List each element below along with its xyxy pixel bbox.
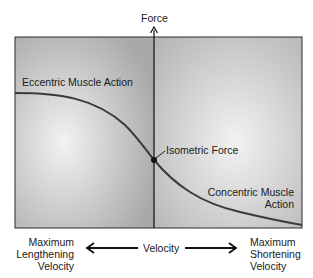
left-label-line3: Velocity — [38, 260, 74, 272]
velocity-axis-label: Velocity — [143, 242, 179, 254]
isometric-label: Isometric Force — [166, 144, 238, 156]
left-label-line1: Maximum — [28, 236, 74, 248]
right-label-line2: Shortening — [250, 248, 301, 260]
eccentric-label: Eccentric Muscle Action — [22, 76, 133, 88]
right-label-line1: Maximum — [250, 236, 296, 248]
force-axis-label: Force — [141, 12, 168, 24]
concentric-label-line2: Action — [265, 198, 294, 210]
left-label-line2: Lengthening — [16, 248, 74, 260]
right-label-line3: Velocity — [250, 260, 286, 272]
concentric-label-line1: Concentric Muscle — [208, 186, 294, 198]
